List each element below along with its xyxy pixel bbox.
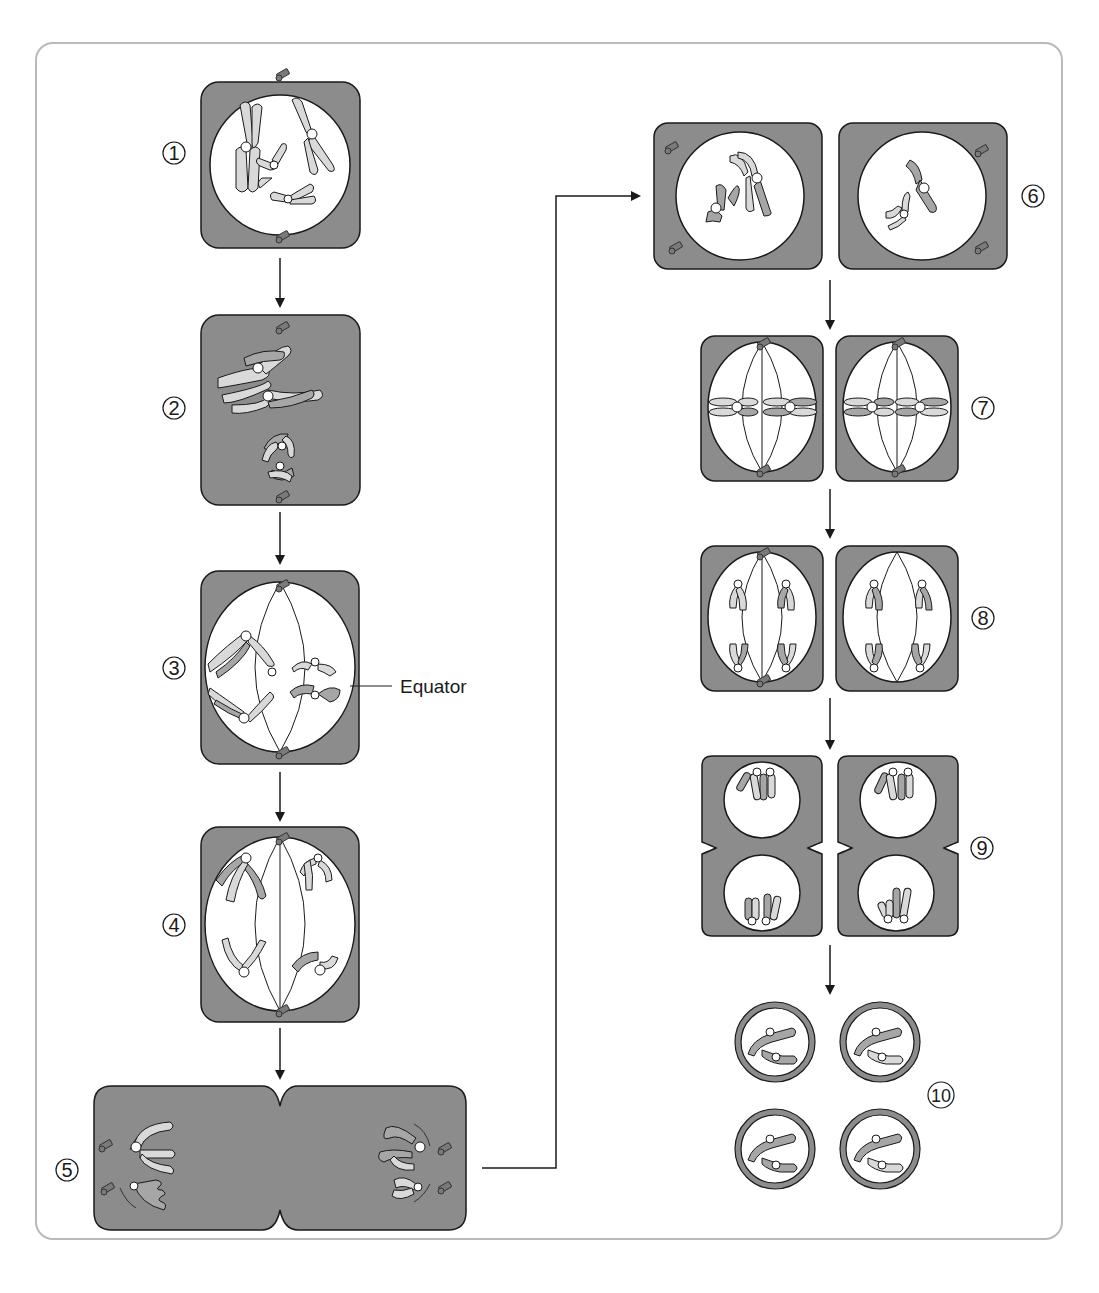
step-number: 4 bbox=[168, 914, 179, 936]
stage-1: 1 bbox=[163, 68, 360, 248]
stage-9: 9 bbox=[702, 756, 993, 936]
gamete-2 bbox=[840, 1002, 920, 1082]
stage-7: 7 bbox=[701, 336, 994, 481]
stage-6: 6 bbox=[654, 123, 1044, 269]
step-number: 10 bbox=[931, 1086, 951, 1106]
step-number: 1 bbox=[168, 142, 179, 164]
stage-3: Equator 3 bbox=[163, 571, 467, 764]
step-number: 8 bbox=[977, 607, 988, 629]
stage-8: 8 bbox=[701, 546, 994, 691]
gamete-4 bbox=[840, 1109, 920, 1189]
step-number: 9 bbox=[976, 837, 987, 859]
stage-10: 10 bbox=[735, 1002, 954, 1189]
stage-5: 5 bbox=[56, 1086, 466, 1230]
step-number: 2 bbox=[168, 397, 179, 419]
step-number: 3 bbox=[168, 657, 179, 679]
connector-arrow-icon bbox=[482, 196, 636, 1168]
stage-4: 4 bbox=[163, 827, 359, 1022]
step-number: 6 bbox=[1027, 185, 1038, 207]
centriole-icon bbox=[276, 68, 290, 81]
step-number: 7 bbox=[977, 397, 988, 419]
gamete-3 bbox=[735, 1109, 815, 1189]
stage-2: 2 bbox=[163, 315, 360, 505]
meiosis-diagram: 1 2 bbox=[0, 0, 1099, 1293]
gamete-1 bbox=[735, 1002, 815, 1082]
equator-label: Equator bbox=[400, 676, 467, 697]
step-number: 5 bbox=[61, 1159, 72, 1181]
